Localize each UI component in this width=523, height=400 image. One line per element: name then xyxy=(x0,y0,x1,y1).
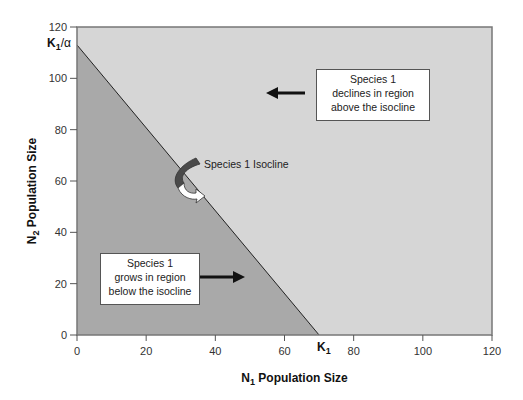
grow-annotation-box: Species 1 grows in region below the isoc… xyxy=(100,253,200,305)
y-tick-label: 40 xyxy=(55,226,67,238)
decline-line-2: declines in region xyxy=(317,86,429,100)
decline-line-1: Species 1 xyxy=(317,72,429,86)
x-tick-label: 60 xyxy=(278,345,290,357)
x-tick-label: 20 xyxy=(140,345,152,357)
decline-line-3: above the isocline xyxy=(317,100,429,114)
y-tick-label: 60 xyxy=(55,175,67,187)
decline-annotation-box: Species 1 declines in region above the i… xyxy=(316,69,430,121)
y-tick-label: 0 xyxy=(61,329,67,341)
y-axis-title: N2 Population Size xyxy=(25,137,41,244)
y-tick-label: 100 xyxy=(49,72,67,84)
k1-label: K1 xyxy=(317,340,331,356)
k1-alpha-label: K1/α xyxy=(47,36,71,52)
grow-line-1: Species 1 xyxy=(101,256,199,270)
x-tick-label: 0 xyxy=(74,345,80,357)
x-axis-ticks: 020406080100120 xyxy=(74,335,501,357)
y-tick-label: 120 xyxy=(49,21,67,33)
x-tick-label: 100 xyxy=(414,345,432,357)
x-tick-label: 40 xyxy=(209,345,221,357)
y-axis-ticks: 020406080100120 xyxy=(49,21,77,341)
isocline-label: Species 1 Isocline xyxy=(204,158,289,170)
y-tick-label: 80 xyxy=(55,124,67,136)
x-axis-title: N1 Population Size xyxy=(241,371,348,387)
x-tick-label: 80 xyxy=(348,345,360,357)
x-tick-label: 120 xyxy=(483,345,501,357)
isocline-chart: 020406080100120 020406080100120 K1/α K1 … xyxy=(0,0,523,400)
grow-line-2: grows in region xyxy=(101,270,199,284)
grow-line-3: below the isocline xyxy=(101,284,199,298)
y-tick-label: 20 xyxy=(55,278,67,290)
